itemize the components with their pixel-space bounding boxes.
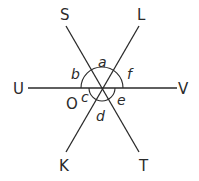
label-L: L (137, 6, 146, 24)
label-U: U (13, 80, 24, 98)
angle-d: d (96, 108, 105, 124)
label-V: V (178, 80, 189, 98)
label-O: O (66, 95, 78, 113)
arc-upper (81, 67, 123, 88)
label-K: K (59, 157, 70, 175)
diagram-svg: S L U V K T O a b f c e d (0, 0, 199, 181)
angle-f: f (127, 66, 134, 82)
angle-diagram: S L U V K T O a b f c e d (0, 0, 199, 181)
label-S: S (60, 6, 70, 24)
angle-b: b (71, 66, 80, 82)
angle-e: e (117, 92, 126, 108)
label-T: T (138, 157, 149, 175)
angle-c: c (81, 89, 89, 105)
angle-a: a (98, 54, 107, 70)
